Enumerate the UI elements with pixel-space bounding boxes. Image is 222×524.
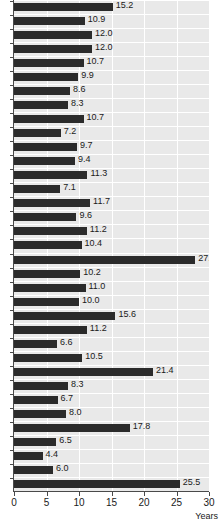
x-axis-tick-label: 10 [64,497,94,509]
bar[interactable] [14,227,87,235]
bar[interactable] [14,312,115,320]
bar[interactable] [14,340,57,348]
bar-value-label: 7.1 [63,181,76,194]
bar[interactable] [14,45,92,53]
y-axis-tick [10,366,13,367]
bar[interactable] [14,270,80,278]
bar-row: 10.0 [14,295,209,309]
x-axis-title: Years [195,511,218,522]
bar[interactable] [14,101,68,109]
y-axis-tick [10,324,13,325]
bar[interactable] [14,87,70,95]
y-axis-tick [10,1,13,2]
y-axis-tick [10,338,13,339]
bar[interactable] [14,354,82,362]
bar[interactable] [14,480,180,488]
bar-row: 8.3 [14,98,209,112]
bar-row: 7.1 [14,182,209,196]
y-axis-tick [10,211,13,212]
bar[interactable] [14,143,77,151]
bar[interactable] [14,31,92,39]
bar-value-label: 9.7 [80,139,93,152]
bar-value-label: 4.4 [46,448,59,461]
bar-row: 4.4 [14,449,209,463]
bar[interactable] [14,157,75,165]
bar-value-label: 6.0 [56,462,69,475]
bar[interactable] [14,171,87,179]
y-axis-tick [10,29,13,30]
bar-value-label: 17.8 [133,420,151,433]
bar-row: 6.0 [14,463,209,477]
bar-row: 17.8 [14,421,209,435]
bar[interactable] [14,185,60,193]
bar[interactable] [14,241,82,249]
y-axis-tick [10,169,13,170]
bar[interactable] [14,396,58,404]
bar[interactable] [14,410,66,418]
bar[interactable] [14,424,130,432]
y-axis-tick [10,352,13,353]
bar-row: 15.2 [14,0,209,14]
bar-value-label: 8.3 [71,97,84,110]
x-axis-tick [209,492,210,496]
x-axis-tick [144,492,145,496]
bar-row: 10.5 [14,351,209,365]
bar-row: 11.0 [14,281,209,295]
bar-row: 8.3 [14,379,209,393]
bar-row: 9.7 [14,140,209,154]
bar-row: 11.2 [14,323,209,337]
x-axis-tick [14,492,15,496]
bar[interactable] [14,368,153,376]
bar[interactable] [14,213,76,221]
bars-layer: 15.210.912.012.010.79.98.68.310.77.29.79… [14,0,209,491]
bar-value-label: 6.5 [59,434,72,447]
bar-value-label: 10.7 [87,55,105,68]
bar-row: 6.6 [14,337,209,351]
y-axis-tick [10,113,13,114]
x-axis-tick [177,492,178,496]
bar[interactable] [14,298,79,306]
bar-value-label: 15.2 [116,0,134,12]
bar-row: 7.2 [14,126,209,140]
y-axis-tick [10,57,13,58]
y-axis-tick [10,282,13,283]
bar[interactable] [14,17,85,25]
bar-value-label: 9.4 [78,153,91,166]
y-axis-tick [10,127,13,128]
y-axis-tick [10,183,13,184]
bar-row: 9.6 [14,210,209,224]
bar[interactable] [14,199,90,207]
bar-value-label: 27.9 [198,252,209,265]
bar-row: 10.9 [14,14,209,28]
bar[interactable] [14,382,68,390]
bar[interactable] [14,73,78,81]
x-axis-tick-label: 5 [32,497,62,509]
bar-row: 8.0 [14,407,209,421]
bar-value-label: 21.4 [156,364,174,377]
bar-row: 9.9 [14,70,209,84]
bar[interactable] [14,466,53,474]
bar-value-label: 11.0 [89,280,106,293]
bar[interactable] [14,59,84,67]
bar[interactable] [14,452,43,460]
bar[interactable] [14,115,84,123]
bar[interactable] [14,256,195,264]
y-axis-tick [10,464,13,465]
bar[interactable] [14,326,87,334]
bar-value-label: 12.0 [95,27,113,40]
bar-value-label: 10.7 [87,111,105,124]
bar-row: 25.5 [14,477,209,491]
x-axis-tick-label: 15 [97,497,127,509]
bar-row: 27.9 [14,253,209,267]
bar-row: 12.0 [14,28,209,42]
bar-value-label: 8.6 [73,83,86,96]
x-axis-tick [79,492,80,496]
bar-row: 12.0 [14,42,209,56]
bar[interactable] [14,284,86,292]
bar[interactable] [14,129,61,137]
y-axis-tick [10,478,13,479]
bar[interactable] [14,438,56,446]
x-axis-tick-label: 25 [162,497,192,509]
bar[interactable] [14,3,113,11]
y-axis-tick [10,155,13,156]
